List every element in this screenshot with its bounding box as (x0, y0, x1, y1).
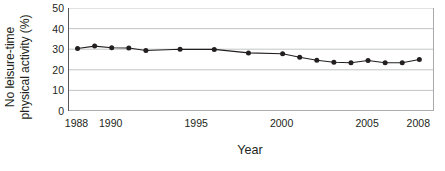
data-point (246, 50, 251, 55)
data-point (417, 57, 422, 62)
data-point (383, 60, 388, 65)
data-point (92, 44, 97, 49)
data-point (348, 60, 353, 65)
data-point (331, 60, 336, 65)
data-point (400, 60, 405, 65)
y-axis-tick-labels: 50403020100 (38, 0, 64, 171)
x-tick-label: 1990 (99, 118, 122, 129)
y-axis-title-line2: physical activity (%) (18, 15, 33, 120)
x-tick-label: 1995 (185, 118, 208, 129)
data-point (109, 45, 114, 50)
x-axis-title: Year (68, 143, 432, 157)
data-point (297, 55, 302, 60)
y-tick-label: 30 (40, 44, 64, 54)
plot-area (68, 8, 434, 111)
data-point (212, 47, 217, 52)
x-tick-label: 2000 (270, 118, 293, 129)
gridlines (69, 8, 433, 111)
data-point (366, 58, 371, 63)
x-tick-label: 1988 (65, 118, 88, 129)
data-point (178, 47, 183, 52)
y-tick-label: 0 (40, 106, 64, 116)
data-point (143, 48, 148, 53)
chart-plot-svg (69, 8, 433, 111)
y-tick-label: 50 (40, 3, 64, 13)
x-axis-tick-labels: 198819901995200020052008 (0, 118, 445, 132)
chart-figure: No leisure-time physical activity (%) 50… (0, 0, 445, 171)
data-markers (75, 44, 422, 66)
y-tick-label: 40 (40, 24, 64, 34)
data-point (314, 58, 319, 63)
y-tick-label: 10 (40, 85, 64, 95)
y-axis-title-line1: No leisure-time (3, 27, 18, 107)
x-tick-label: 2005 (355, 118, 378, 129)
data-point (75, 46, 80, 51)
x-tick-label: 2008 (407, 118, 430, 129)
data-point (280, 51, 285, 56)
y-axis-title: No leisure-time physical activity (%) (1, 8, 35, 126)
y-tick-label: 20 (40, 65, 64, 75)
data-point (126, 45, 131, 50)
